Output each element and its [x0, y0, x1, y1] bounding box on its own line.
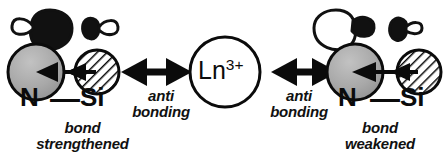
left-large-lobe-node [12, 19, 33, 34]
left-bond-caption: bond strengthened [10, 120, 155, 152]
right-silicon-label: Si [400, 84, 425, 110]
left-antibonding-line1: anti [124, 88, 198, 104]
right-small-lobe-node [406, 23, 422, 34]
right-bond-caption-line1: bond [320, 120, 440, 136]
central-ion-symbol: Ln [198, 56, 226, 84]
right-antibonding-line2: bonding [262, 104, 336, 120]
right-antibonding-label: anti bonding [262, 88, 336, 120]
right-bond-caption-line2: weakened [320, 136, 440, 152]
right-small-lobe [390, 18, 407, 40]
right-nitrogen-label: N [338, 84, 357, 110]
left-small-lobe [83, 18, 99, 39]
right-bond-dash: — [370, 84, 400, 114]
left-silicon-label: Si [80, 84, 105, 110]
right-orbital-lobes [314, 10, 422, 50]
right-antibonding-line1: anti [262, 88, 336, 104]
central-ion-label: Ln3+ [198, 58, 244, 83]
left-antibonding-label: anti bonding [124, 88, 198, 120]
left-bond-caption-line2: strengthened [10, 136, 155, 152]
right-bond-caption: bond weakened [320, 120, 440, 152]
left-nitrogen-label: N [20, 84, 39, 110]
right-large-lobe-node [352, 17, 374, 36]
left-antibonding-line2: bonding [124, 104, 198, 120]
left-bond-dash: — [50, 84, 80, 114]
left-bond-caption-line1: bond [10, 120, 155, 136]
central-ion-charge: 3+ [226, 56, 244, 73]
left-interaction-arrow [121, 58, 192, 86]
left-small-lobe-node [99, 21, 118, 35]
orbital-interaction-diagram: N — Si Ln3+ N — Si anti bonding anti bon… [0, 0, 443, 168]
